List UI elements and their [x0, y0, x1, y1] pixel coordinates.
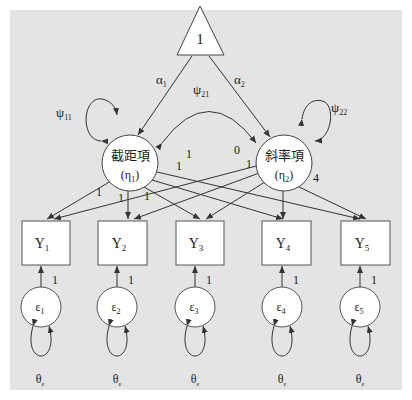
error-e4: ε4: [262, 287, 302, 356]
observed-y1: Y1: [22, 221, 70, 265]
loading-i5: 1: [186, 147, 192, 161]
svg-text:(η1): (η1): [121, 168, 139, 184]
loading-i4: 1: [176, 159, 182, 173]
observed-y5: Y5: [341, 221, 390, 265]
intercept-factor: 截距項 (η1): [102, 135, 158, 191]
alpha1-path: [138, 56, 192, 135]
error-loading-4: 1: [293, 273, 299, 287]
psi11-variance: [86, 99, 117, 141]
svg-text:斜率項: 斜率項: [265, 148, 304, 163]
loading-i1: 1: [96, 185, 102, 199]
alpha2-label: α2: [234, 72, 245, 89]
svg-text:(η2): (η2): [275, 168, 293, 184]
slope-factor: 斜率項 (η2): [256, 135, 312, 191]
theta-label-2: θε: [113, 372, 122, 388]
psi21-label: ψ21: [193, 82, 209, 99]
theta-label-3: θε: [191, 372, 200, 388]
theta-label-4: θε: [278, 372, 287, 388]
error-loading-2: 1: [128, 273, 134, 287]
theta-label-1: θε: [36, 372, 45, 388]
svg-text:1: 1: [196, 31, 204, 47]
observed-y4: Y4: [262, 221, 311, 265]
error-e2: ε2: [97, 287, 137, 356]
psi11-label: ψ11: [56, 105, 72, 122]
loading-s2: 1: [246, 157, 252, 171]
error-paths: [41, 266, 360, 288]
svg-text:截距項: 截距項: [111, 148, 150, 163]
loading-s1: 0: [234, 143, 240, 157]
loading-i2: 1: [118, 191, 124, 205]
error-e1: ε1: [21, 287, 61, 356]
constant-node: 1: [177, 6, 224, 55]
psi22-variance: [302, 100, 331, 141]
alpha1-label: α1: [156, 72, 167, 89]
theta-label-5: θε: [356, 372, 365, 388]
error-e5: ε5: [340, 287, 380, 356]
observed-y2: Y2: [98, 221, 147, 265]
error-loading-1: 1: [52, 273, 58, 287]
psi22-label: ψ22: [331, 100, 347, 117]
error-e3: ε3: [175, 287, 215, 356]
loading-i3: 1: [144, 189, 150, 203]
loading-s5: 4: [313, 171, 319, 185]
psi21-covariance: [162, 112, 256, 144]
error-loading-5: 1: [371, 273, 377, 287]
observed-y3: Y3: [176, 221, 224, 265]
lgcm-diagram: 1 α1 α2 ψ21 ψ11 ψ22 1 1 1 1 1 0 1 2 3 4 …: [0, 0, 412, 400]
error-loading-3: 1: [206, 273, 212, 287]
